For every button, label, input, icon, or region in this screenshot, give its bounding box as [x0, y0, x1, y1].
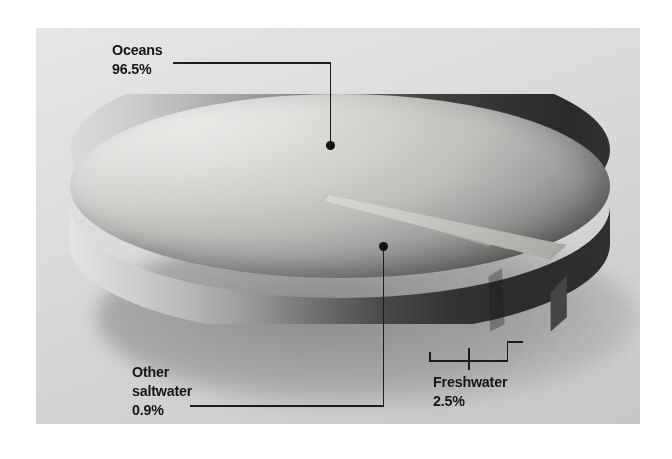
- label-oceans-value: 96.5%: [112, 59, 162, 78]
- label-oceans: Oceans 96.5%: [112, 40, 162, 78]
- label-freshwater: Freshwater 2.5%: [433, 372, 507, 410]
- leader-oceans-dot: [326, 141, 335, 150]
- chart-panel: [36, 28, 640, 424]
- label-freshwater-name: Freshwater: [433, 372, 507, 391]
- leader-other-saltwater-horizontal: [190, 405, 384, 407]
- label-other-saltwater-name-line2: saltwater: [132, 381, 192, 400]
- label-other-saltwater: Other saltwater 0.9%: [132, 362, 192, 419]
- label-other-saltwater-value: 0.9%: [132, 400, 192, 419]
- leader-oceans-vertical: [330, 62, 332, 146]
- bracket-freshwater-right-riser: [507, 342, 509, 361]
- bracket-freshwater-right-tick: [507, 341, 523, 343]
- label-other-saltwater-name-line1: Other: [132, 362, 192, 381]
- pie-stage: [36, 28, 640, 424]
- leader-oceans-horizontal: [173, 62, 331, 64]
- label-freshwater-value: 2.5%: [433, 391, 507, 410]
- leader-freshwater-vertical: [468, 348, 470, 370]
- figure-root: Oceans 96.5% Other saltwater 0.9% Freshw…: [0, 0, 672, 459]
- leader-other-saltwater-vertical: [383, 247, 385, 406]
- leader-other-saltwater-dot: [379, 242, 388, 251]
- label-oceans-name: Oceans: [112, 40, 162, 59]
